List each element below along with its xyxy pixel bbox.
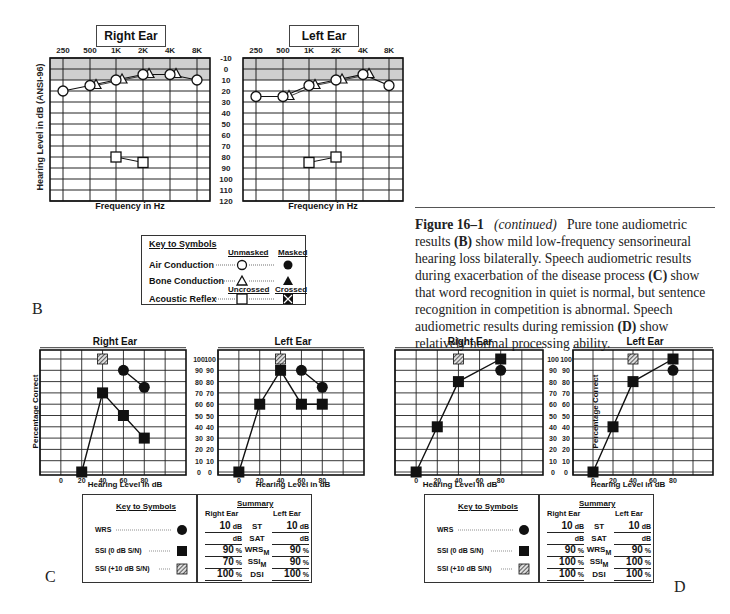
speech-d-left-x-label: Hearing Level in dB xyxy=(578,480,678,489)
summary-measure-label: DSI xyxy=(242,570,272,579)
summary-row: 100%DSI100% xyxy=(205,568,309,581)
summary-row: 100%DSI100% xyxy=(547,568,651,581)
svg-text:90: 90 xyxy=(195,367,203,374)
svg-text:20: 20 xyxy=(549,446,557,453)
speech-c-left-ear: 020406080 xyxy=(218,348,364,484)
svg-text:70: 70 xyxy=(195,390,203,397)
svg-text:60: 60 xyxy=(562,401,570,408)
summary-measure-label: WRSM xyxy=(242,545,272,556)
summary-right-value: 100% xyxy=(205,568,242,581)
svg-text:20: 20 xyxy=(195,446,203,453)
svg-text:70: 70 xyxy=(549,390,557,397)
svg-text:50: 50 xyxy=(206,413,214,420)
svg-text:60: 60 xyxy=(549,401,557,408)
svg-text:50: 50 xyxy=(562,413,570,420)
svg-text:30: 30 xyxy=(562,435,570,442)
svg-text:90: 90 xyxy=(562,367,570,374)
ssi0-icon xyxy=(177,546,187,556)
summary-measure-label: SSIM xyxy=(242,557,272,568)
speech-c-left-yticks: 1009080706050403020100 xyxy=(204,356,216,476)
summary-measure-label: WRSM xyxy=(584,545,614,556)
svg-text:100: 100 xyxy=(204,356,216,363)
svg-text:0: 0 xyxy=(59,477,63,484)
speech-c-key-symbols xyxy=(83,495,197,582)
svg-text:20: 20 xyxy=(206,446,214,453)
speech-d-right-x-label: Hearing Level in dB xyxy=(410,480,510,489)
summary-title: Summary xyxy=(579,499,615,508)
svg-text:0: 0 xyxy=(237,477,241,484)
svg-text:40: 40 xyxy=(562,424,570,431)
panel-label-d: D xyxy=(674,578,686,596)
svg-text:0: 0 xyxy=(208,469,212,476)
summary-measure-label: DSI xyxy=(584,570,614,579)
summary-left-value: 100% xyxy=(614,568,651,581)
svg-text:60: 60 xyxy=(206,401,214,408)
summary-title: Summary xyxy=(237,499,273,508)
speech-c-right-title: Right Ear xyxy=(80,336,150,347)
svg-text:30: 30 xyxy=(206,435,214,442)
svg-text:70: 70 xyxy=(562,390,570,397)
speech-c-right-x-label: Hearing Level in dB xyxy=(75,480,175,489)
svg-text:90: 90 xyxy=(549,367,557,374)
speech-d-right-ear: 0204060801009080706050403020100 xyxy=(395,348,559,484)
svg-text:0: 0 xyxy=(551,469,555,476)
svg-text:100: 100 xyxy=(547,356,559,363)
svg-text:90: 90 xyxy=(206,367,214,374)
svg-text:40: 40 xyxy=(549,424,557,431)
summary-right-ear-heading: Right Ear xyxy=(205,509,238,518)
svg-text:10: 10 xyxy=(562,458,570,465)
summary-left-value: 100% xyxy=(272,568,309,581)
svg-text:0: 0 xyxy=(197,469,201,476)
speech-d-y-label: Percentage Correct xyxy=(591,372,600,452)
summary-right-value: 100% xyxy=(547,568,584,581)
ssi10-icon xyxy=(519,564,529,574)
svg-text:80: 80 xyxy=(195,379,203,386)
speech-d-right-title: Right Ear xyxy=(435,336,505,347)
panel-label-c: C xyxy=(45,568,56,586)
svg-text:60: 60 xyxy=(195,401,203,408)
speech-c-summary-box: SummaryRight EarLeft Ear10dBST10dBdBSATd… xyxy=(196,494,312,583)
svg-text:50: 50 xyxy=(549,413,557,420)
svg-text:80: 80 xyxy=(206,379,214,386)
speech-c-left-title: Left Ear xyxy=(258,336,328,347)
speech-c-right-ear: 0204060801009080706050403020100 xyxy=(40,348,205,484)
svg-text:70: 70 xyxy=(206,390,214,397)
speech-d-left-title: Left Ear xyxy=(610,336,680,347)
speech-c-left-x-label: Hearing Level in dB xyxy=(243,480,343,489)
speech-d-summary-box: SummaryRight EarLeft Ear10dBST10dBdBSATd… xyxy=(538,494,654,583)
svg-text:0: 0 xyxy=(564,469,568,476)
svg-text:10: 10 xyxy=(549,458,557,465)
summary-measure-label: SSIM xyxy=(584,557,614,568)
summary-left-ear-heading: Left Ear xyxy=(273,509,301,518)
svg-text:30: 30 xyxy=(195,435,203,442)
summary-measure-label: ST xyxy=(242,522,272,531)
ssi10-icon xyxy=(177,564,187,574)
svg-text:10: 10 xyxy=(206,458,214,465)
wrs-icon xyxy=(519,525,529,535)
speech-c-key-box: Key to Symbols WRS SSI (0 dB S/N) SSI (+… xyxy=(82,494,198,583)
ssi0-icon xyxy=(519,546,529,556)
svg-text:30: 30 xyxy=(549,435,557,442)
summary-measure-label: SAT xyxy=(584,534,614,543)
summary-right-ear-heading: Right Ear xyxy=(547,509,580,518)
svg-text:80: 80 xyxy=(562,379,570,386)
summary-measure-label: SAT xyxy=(242,534,272,543)
svg-text:40: 40 xyxy=(206,424,214,431)
summary-measure-label: ST xyxy=(584,522,614,531)
speech-d-key-symbols xyxy=(425,495,539,582)
wrs-icon xyxy=(177,525,187,535)
svg-text:10: 10 xyxy=(195,458,203,465)
speech-audiometry-charts: 0204060801009080706050403020100020406080… xyxy=(0,0,730,500)
svg-text:50: 50 xyxy=(195,413,203,420)
svg-text:40: 40 xyxy=(195,424,203,431)
summary-left-ear-heading: Left Ear xyxy=(615,509,643,518)
svg-text:80: 80 xyxy=(549,379,557,386)
svg-text:20: 20 xyxy=(562,446,570,453)
speech-d-left-yticks: 1009080706050403020100 xyxy=(560,356,572,476)
speech-c-y-label: Percentage Correct xyxy=(31,372,40,452)
speech-d-key-box: Key to Symbols WRS SSI (0 dB S/N) SSI (+… xyxy=(424,494,540,583)
svg-text:100: 100 xyxy=(560,356,572,363)
